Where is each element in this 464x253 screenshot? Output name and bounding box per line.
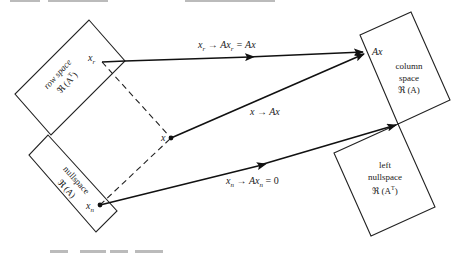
four-subspaces-diagram: row space ℜ (AT) nullspace ℜ (A) column …: [0, 0, 464, 253]
label-x: x: [160, 132, 166, 143]
svg-text:column: column: [396, 61, 423, 71]
mapping-general-label: x → Ax: [249, 106, 280, 117]
left-nullspace-label: left nullspace ℜ (AT): [368, 160, 402, 196]
arrow-x-to-ax: [171, 54, 364, 138]
row-space-label: row space ℜ (AT): [42, 57, 83, 99]
point-xn: [98, 203, 103, 208]
label-xr: xr: [87, 52, 95, 66]
nullspace-label: nullspace ℜ (A): [52, 164, 92, 205]
column-space-label: column space ℜ (A): [396, 61, 423, 95]
arrow-xr-to-ax-tail: [248, 52, 363, 57]
dashed-xr-to-x: [102, 62, 171, 138]
mapping-null-label: xn → Axn = 0: [225, 175, 279, 189]
point-x: [169, 136, 174, 141]
label-xn: xn: [85, 200, 94, 214]
label-ax: Ax: [371, 46, 383, 57]
svg-text:nullspace: nullspace: [368, 172, 402, 182]
svg-text:space: space: [399, 73, 419, 83]
svg-text:ℜ (A): ℜ (A): [398, 85, 420, 95]
svg-text:left: left: [379, 160, 391, 170]
svg-text:ℜ (AT): ℜ (AT): [372, 185, 397, 196]
arrow-xn-to-zero-tail: [260, 125, 396, 165]
dashed-xn-to-x: [100, 138, 171, 205]
cropped-caption-top: [10, 0, 275, 2]
mapping-row-label: xr → Axr = Ax: [197, 39, 256, 53]
